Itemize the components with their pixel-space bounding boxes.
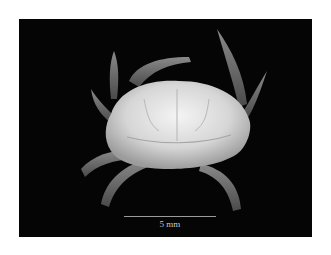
scale-bar-label: 5 mm — [124, 219, 216, 229]
crab-illustration — [19, 19, 312, 237]
scale-bar — [124, 216, 216, 217]
carapace — [106, 81, 251, 169]
specimen-photo: 5 mm — [19, 19, 312, 237]
